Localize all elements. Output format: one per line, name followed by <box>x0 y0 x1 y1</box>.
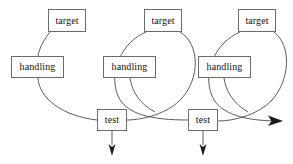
node-label: target <box>244 16 269 26</box>
node-target-3[interactable]: target <box>238 9 276 32</box>
edge-target1-handling1 <box>38 32 50 56</box>
node-handling-3[interactable]: handling <box>198 56 251 78</box>
node-label: handling <box>19 62 57 72</box>
node-label: test <box>195 115 211 125</box>
node-test-2[interactable]: test <box>188 109 218 131</box>
edge-handling3-down <box>224 78 248 112</box>
node-handling-1[interactable]: handling <box>11 56 64 78</box>
edge-handling2-down <box>130 78 155 112</box>
node-label: target <box>54 16 79 26</box>
node-test-1[interactable]: test <box>97 109 127 131</box>
arrow-test2-down-icon <box>200 144 207 156</box>
node-handling-2[interactable]: handling <box>103 56 156 78</box>
edge-handling1-test1 <box>38 78 97 120</box>
node-target-1[interactable]: target <box>48 9 86 32</box>
arrow-test1-down-icon <box>109 144 116 156</box>
node-target-2[interactable]: target <box>144 9 182 32</box>
node-label: target <box>150 16 175 26</box>
node-label: test <box>104 115 120 125</box>
node-label: handling <box>206 62 244 72</box>
node-label: handling <box>111 62 149 72</box>
diagram-canvas: target handling test target handling tes… <box>0 0 293 164</box>
